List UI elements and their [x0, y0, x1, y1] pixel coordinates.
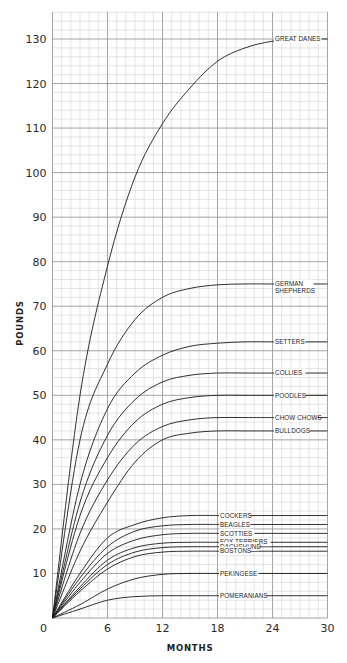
grid [53, 12, 328, 618]
x-tick-label: 0 [40, 622, 47, 635]
svg-text:GERMAN: GERMAN [275, 280, 304, 287]
x-tick-label: 6 [104, 622, 111, 635]
label-great-danes: GREAT DANES [274, 35, 322, 44]
svg-text:PEKINGESE: PEKINGESE [220, 570, 257, 577]
label-collies: COLLIES [274, 369, 305, 378]
y-tick-label: 100 [26, 167, 47, 180]
label-chow-chows: CHOW CHOWS [274, 413, 322, 422]
label-poodles: POODLES [274, 391, 306, 400]
y-tick-label: 80 [33, 256, 47, 269]
y-tick-label: 90 [33, 211, 47, 224]
label-setters: SETTERS [274, 337, 305, 346]
label-scotties: SCOTTIES [219, 529, 254, 538]
svg-text:POODLES: POODLES [275, 392, 306, 399]
y-tick-label: 10 [33, 567, 47, 580]
svg-text:CHOW CHOWS: CHOW CHOWS [275, 414, 322, 421]
x-tick-label: 30 [321, 622, 335, 635]
svg-text:BEAGLES: BEAGLES [220, 521, 250, 528]
label-bulldogs: BULLDOGS [274, 426, 310, 435]
y-axis-ticks: 102030405060708090100110120130 [26, 33, 47, 580]
y-tick-label: 120 [26, 78, 47, 91]
growth-chart: GREAT DANESGERMANSHEPHERDSSETTERSCOLLIES… [0, 0, 347, 663]
x-tick-label: 18 [211, 622, 225, 635]
svg-text:COCKERS: COCKERS [220, 512, 252, 519]
label-pekingese: PEKINGESE [219, 569, 258, 578]
svg-text:SHEPHERDS: SHEPHERDS [275, 287, 315, 294]
svg-text:COLLIES: COLLIES [275, 369, 302, 376]
x-axis-title: MONTHS [167, 643, 214, 653]
svg-text:SETTERS: SETTERS [275, 338, 305, 345]
y-tick-label: 30 [33, 478, 47, 491]
svg-text:BULLDOGS: BULLDOGS [275, 427, 310, 434]
label-bostons: BOSTONS [219, 547, 251, 556]
y-tick-label: 70 [33, 300, 47, 313]
svg-text:BOSTONS: BOSTONS [220, 547, 251, 554]
y-tick-label: 60 [33, 345, 47, 358]
y-tick-label: 20 [33, 523, 47, 536]
y-tick-label: 50 [33, 389, 47, 402]
x-tick-label: 12 [156, 622, 170, 635]
label-german-shepherds: GERMANSHEPHERDS [274, 279, 315, 295]
x-tick-label: 24 [266, 622, 280, 635]
svg-text:SCOTTIES: SCOTTIES [220, 530, 252, 537]
label-pomeranians: POMERANIANS [219, 591, 268, 600]
y-tick-label: 130 [26, 33, 47, 46]
y-axis-title: POUNDS [15, 300, 25, 345]
y-tick-label: 40 [33, 434, 47, 447]
x-axis-ticks: 0612182430 [40, 622, 335, 635]
label-cockers: COCKERS [219, 511, 252, 520]
svg-text:POMERANIANS: POMERANIANS [220, 592, 268, 599]
label-beagles: BEAGLES [219, 520, 250, 529]
y-tick-label: 110 [26, 122, 47, 135]
svg-text:GREAT DANES: GREAT DANES [275, 35, 321, 42]
